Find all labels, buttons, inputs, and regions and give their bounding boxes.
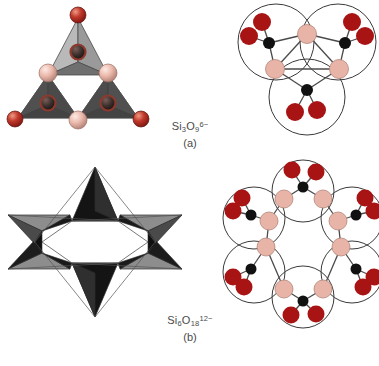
bridging-oxygen-left: [266, 60, 285, 79]
terminal-oxygen: [308, 164, 325, 181]
terminal-oxygen: [284, 162, 301, 179]
bridging-oxygen-top: [298, 25, 317, 44]
star-tetrahedra: [8, 167, 182, 317]
terminal-oxygen: [355, 279, 372, 296]
terminal-oxygen: [357, 190, 374, 207]
silicon-atom: [298, 182, 309, 193]
silicon-atom-left: [263, 37, 275, 49]
silicon-atom: [351, 210, 362, 221]
hexasilicate-star-svg: [0, 165, 190, 320]
silicon-atom: [246, 210, 257, 221]
apex-oxygen-top: [70, 7, 86, 23]
terminal-oxygen: [308, 101, 326, 119]
panel-b-ball-and-stick-diagram: [228, 165, 379, 320]
terminal-oxygen: [308, 306, 325, 323]
bridging-oxygen: [260, 212, 278, 230]
terminal-oxygen: [283, 307, 300, 324]
bridging-oxygen: [275, 190, 293, 208]
bridging-oxygen-right: [330, 60, 349, 79]
panel-b-polyhedral-diagram: [0, 165, 190, 320]
silicon-atom-bottom: [301, 84, 313, 96]
terminal-oxygen: [356, 27, 374, 45]
silicon-atom: [351, 264, 362, 275]
sublabel-panel-a: (a): [120, 137, 260, 150]
caption-panel-b: Si6O1812− (b): [120, 312, 260, 344]
bridging-oxygen-bottom: [69, 111, 87, 129]
caption-panel-a: Si3O96− (a): [120, 118, 260, 150]
terminal-oxygen: [234, 190, 251, 207]
bridging-oxygen-upper-left: [39, 64, 57, 82]
apex-oxygen-left: [7, 111, 23, 127]
bridging-oxygen: [257, 238, 275, 256]
oxygen-right-inner: [101, 96, 116, 111]
bridging-oxygen: [314, 280, 332, 298]
silicon-atom: [246, 264, 257, 275]
bridging-oxygen-upper-right: [99, 64, 117, 82]
formula-panel-a: Si3O96−: [120, 118, 260, 136]
bridging-oxygen: [332, 238, 350, 256]
silicon-atom-right: [339, 37, 351, 49]
terminal-oxygen: [286, 103, 304, 121]
oxygen-top-inner: [71, 45, 86, 60]
sublabel-panel-b: (b): [120, 331, 260, 344]
bridging-oxygen: [329, 212, 347, 230]
bridging-oxygen: [314, 190, 332, 208]
hexasilicate-ballstick-svg: [228, 165, 379, 320]
bridging-oxygen: [275, 280, 293, 298]
terminal-oxygen: [343, 13, 361, 31]
oxygen-left-inner: [41, 96, 56, 111]
terminal-oxygen: [236, 279, 253, 296]
terminal-oxygen: [253, 13, 271, 31]
silicon-atom: [298, 296, 309, 307]
formula-panel-b: Si6O1812−: [120, 312, 260, 330]
terminal-oxygen: [240, 27, 258, 45]
